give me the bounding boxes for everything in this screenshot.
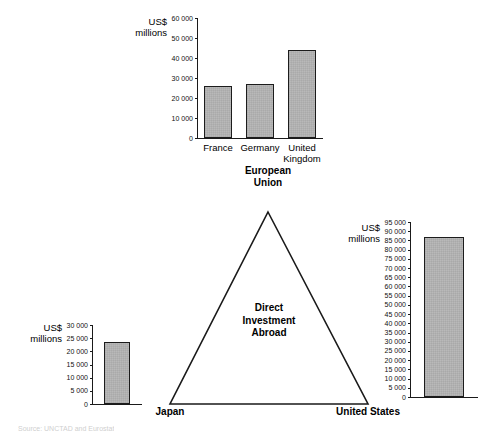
triangle-diagram	[0, 0, 482, 435]
investment-triangle-figure: US$ millions 010 00020 00030 00040 00050…	[0, 0, 482, 435]
source-note: Source: UNCTAD and Eurostat	[18, 425, 114, 432]
node-label-japan: Japan	[128, 406, 212, 418]
node-label-european-union: European Union	[208, 165, 328, 189]
node-label-united-states: United States	[310, 406, 426, 418]
center-label-direct-investment-abroad: Direct Investment Abroad	[209, 302, 329, 340]
